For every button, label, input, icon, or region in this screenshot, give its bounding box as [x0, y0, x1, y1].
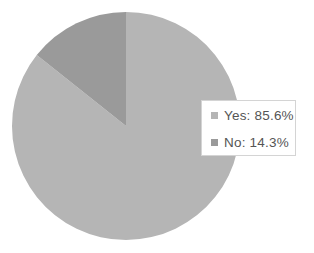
legend-swatch-no	[211, 139, 218, 146]
chart-legend: Yes: 85.6% No: 14.3%	[201, 100, 296, 156]
legend-item-yes: Yes: 85.6%	[211, 108, 294, 123]
legend-item-no: No: 14.3%	[211, 135, 289, 150]
legend-swatch-yes	[211, 112, 218, 119]
legend-label-no: No: 14.3%	[224, 135, 289, 150]
legend-label-yes: Yes: 85.6%	[224, 108, 294, 123]
